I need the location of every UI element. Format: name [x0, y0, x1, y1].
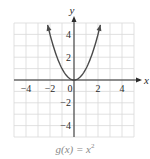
x-axis-arrow-icon: [136, 78, 142, 83]
x-tick-label: −2: [45, 83, 56, 94]
y-tick-label: 2: [66, 52, 71, 63]
y-axis-label: y: [69, 4, 75, 16]
y-axis-arrow-icon: [72, 16, 77, 22]
x-tick-label: −4: [21, 83, 32, 94]
y-tick-label: 4: [66, 29, 71, 40]
y-tick-label: −2: [60, 97, 71, 108]
x-tick-label: 2: [96, 83, 101, 94]
caption-text: g(x) = x: [55, 143, 91, 155]
x-tick-label: 4: [120, 83, 125, 94]
x-axis-label: x: [143, 74, 149, 86]
chart-caption: g(x) = x2: [0, 142, 150, 155]
caption-exponent: 2: [91, 142, 95, 150]
x-tick-label: 0: [68, 83, 73, 94]
y-tick-label: −4: [60, 120, 71, 131]
chart-svg: −4−202442−2−4 x y: [0, 0, 150, 159]
